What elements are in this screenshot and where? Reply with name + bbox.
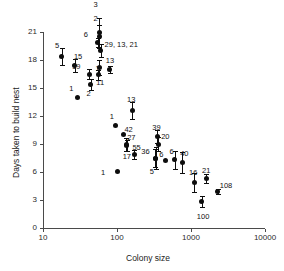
error-bar-cap: [97, 60, 102, 61]
data-point-label: 16: [189, 169, 197, 177]
x-tick-label: 1000: [171, 234, 211, 242]
x-tick-label: 10000: [245, 234, 284, 242]
data-marker: [132, 152, 137, 157]
data-point-label: 5: [150, 168, 154, 176]
error-bar-cap: [173, 169, 178, 170]
error-bar-cap: [132, 159, 137, 160]
data-point-label: 3: [93, 1, 97, 9]
error-bar-cap: [60, 65, 65, 66]
data-marker: [115, 169, 120, 174]
data-point-label: 6: [159, 151, 163, 159]
data-marker: [75, 95, 80, 100]
data-point-label: 13: [127, 96, 135, 104]
y-axis-title: Days taken to build nest: [12, 87, 21, 178]
data-point-label: 1: [110, 113, 114, 121]
data-marker: [98, 48, 103, 53]
x-tick-mark: [117, 229, 118, 232]
data-point-label: 55: [132, 144, 140, 152]
error-bar-cap: [108, 73, 113, 74]
y-tick-mark: [40, 116, 43, 117]
data-marker: [124, 143, 129, 148]
data-marker: [107, 67, 112, 72]
data-point-label: 19: [72, 63, 80, 71]
y-tick-label: 3: [15, 196, 37, 204]
y-tick-label: 18: [15, 56, 37, 64]
data-marker: [172, 157, 177, 162]
data-point-label: 11: [96, 79, 104, 87]
data-marker: [156, 142, 161, 147]
data-marker: [163, 158, 168, 163]
data-point-label: 108: [220, 182, 233, 190]
data-point-label: 15: [74, 53, 82, 61]
x-tick-mark: [265, 229, 266, 232]
data-point-label: 39: [152, 124, 160, 132]
data-point-label: 1: [69, 85, 73, 93]
error-bar-cap: [200, 207, 205, 208]
data-point-label: 17: [123, 153, 131, 161]
error-bar-cap: [97, 18, 102, 19]
data-point-label: 6: [84, 31, 88, 39]
data-point-label: 5: [55, 42, 59, 50]
data-marker: [59, 54, 64, 59]
y-tick-mark: [40, 144, 43, 145]
data-point-label: 13: [106, 57, 114, 65]
error-bar-cap: [192, 192, 197, 193]
y-axis-line: [43, 32, 44, 228]
data-marker: [113, 123, 118, 128]
data-marker: [199, 199, 204, 204]
x-tick-label: 10: [23, 234, 63, 242]
error-bar-cap: [180, 173, 185, 174]
x-tick-mark: [43, 229, 44, 232]
error-bar-cap: [130, 119, 135, 120]
data-point-label: 21: [202, 167, 210, 175]
data-marker: [88, 82, 93, 87]
error-bar-cap: [73, 72, 78, 73]
x-tick-mark: [191, 229, 192, 232]
error-bar-cap: [99, 44, 104, 45]
y-tick-mark: [40, 172, 43, 173]
error-bar-cap: [60, 48, 65, 49]
data-point-label: 36: [141, 148, 149, 156]
data-marker: [96, 72, 101, 77]
data-point-label: 29, 13, 21: [105, 41, 138, 49]
y-tick-label: 21: [15, 28, 37, 36]
error-bar-cap: [87, 69, 92, 70]
data-point-label: 1: [101, 169, 105, 177]
y-tick-mark: [40, 32, 43, 33]
y-tick-mark: [40, 88, 43, 89]
x-axis-title: Colony size: [126, 254, 170, 263]
x-tick-label: 100: [97, 234, 137, 242]
x-axis-line: [43, 228, 265, 229]
data-point-label: 20: [161, 133, 169, 141]
y-tick-mark: [40, 60, 43, 61]
data-point-label: 100: [197, 213, 210, 221]
error-bar-cap: [200, 196, 205, 197]
error-bar-cap: [89, 79, 94, 80]
error-bar-cap: [154, 169, 159, 170]
data-marker: [204, 176, 209, 181]
data-marker: [215, 189, 220, 194]
data-marker: [180, 160, 185, 165]
data-marker: [192, 180, 197, 185]
data-marker: [130, 108, 135, 113]
error-bar-cap: [99, 57, 104, 58]
data-marker: [153, 156, 158, 161]
data-point-label: 2: [87, 90, 91, 98]
data-marker: [87, 72, 92, 77]
data-point-label: 6: [170, 148, 174, 156]
y-tick-mark: [40, 200, 43, 201]
error-bar-cap: [125, 140, 130, 141]
scatter-chart: 036912151821 10100100010000 Days taken t…: [0, 0, 284, 271]
error-bar-cap: [216, 194, 221, 195]
error-bar-cap: [204, 183, 209, 184]
data-point-label: 40: [180, 150, 188, 158]
y-tick-label: 0: [15, 224, 37, 232]
error-bar-cap: [96, 70, 101, 71]
